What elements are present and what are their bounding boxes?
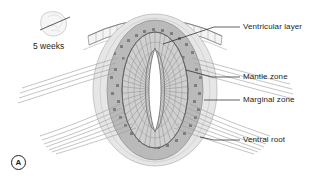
figure-panel: Ventricular layer Mantle zone Marginal z… [0, 0, 325, 180]
embryo-sketch-icon [40, 12, 70, 36]
panel-letter: A [11, 155, 26, 170]
label-ventral-root: Ventral root [243, 136, 285, 144]
label-marginal-zone: Marginal zone [243, 96, 295, 104]
label-mantle-zone: Mantle zone [243, 73, 288, 81]
label-ventricular-layer: Ventricular layer [243, 23, 302, 31]
stage-label: 5 weeks [33, 42, 64, 51]
